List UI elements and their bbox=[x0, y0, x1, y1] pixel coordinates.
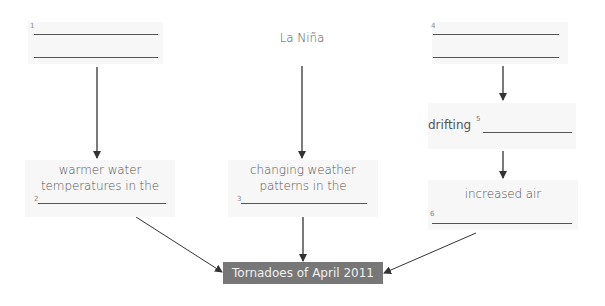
flowchart-canvas: 1 La Niña 4 warmer water temperatures in… bbox=[0, 0, 605, 306]
cause-box-4: 4 bbox=[432, 22, 568, 64]
warmer-water-line2: temperatures in the bbox=[25, 178, 175, 195]
answer-blank-2[interactable] bbox=[38, 203, 166, 204]
drifting-label: drifting bbox=[428, 118, 471, 132]
answer-blank-3[interactable] bbox=[241, 203, 367, 204]
answer-blank-1a[interactable] bbox=[34, 34, 158, 35]
result-box-tornadoes: Tornadoes of April 2011 bbox=[223, 262, 383, 284]
arrow-col3-to-result bbox=[384, 233, 476, 273]
blank-number-6: 6 bbox=[430, 210, 434, 218]
answer-blank-4b[interactable] bbox=[433, 57, 559, 58]
cause-box-1: 1 bbox=[28, 22, 163, 64]
la-nina-label: La Niña bbox=[240, 30, 364, 47]
increased-air-label: increased air bbox=[428, 186, 578, 203]
blank-number-1: 1 bbox=[30, 22, 34, 30]
cause-box-la-nina: La Niña bbox=[240, 28, 364, 50]
arrow-col1-to-result bbox=[136, 217, 222, 272]
blank-number-2: 2 bbox=[34, 195, 38, 203]
answer-blank-4a[interactable] bbox=[433, 34, 559, 35]
effect-box-drifting: drifting 5 bbox=[428, 103, 576, 149]
answer-blank-6[interactable] bbox=[432, 223, 572, 224]
effect-box-warmer-water: warmer water temperatures in the 2 bbox=[25, 160, 175, 217]
changing-weather-line1: changing weather bbox=[228, 162, 378, 179]
blank-number-3: 3 bbox=[237, 195, 241, 203]
effect-box-increased-air: increased air 6 bbox=[428, 180, 578, 230]
blank-number-5: 5 bbox=[476, 115, 480, 123]
warmer-water-line1: warmer water bbox=[25, 162, 175, 179]
blank-number-4: 4 bbox=[431, 22, 435, 30]
effect-box-changing-weather: changing weather patterns in the 3 bbox=[228, 160, 378, 217]
answer-blank-1b[interactable] bbox=[34, 57, 158, 58]
answer-blank-5[interactable] bbox=[483, 132, 572, 133]
changing-weather-line2: patterns in the bbox=[228, 178, 378, 195]
